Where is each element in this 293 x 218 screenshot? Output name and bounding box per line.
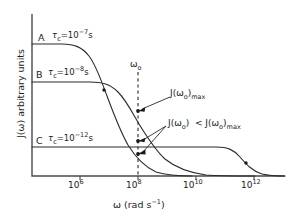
x-axis-title-close: ) [161,199,165,210]
curve-a-tau-1e-7 [32,44,192,176]
leader-line-j-omega-a [143,126,166,140]
tau-mid-c: =10 [57,133,75,143]
data-marker-curve-c [244,161,247,164]
tau-unit-c: s [88,133,92,143]
tick-3-exp: 10 [194,178,202,186]
journal-figure: A τc=10−7s B τc=10−8s C τc=10−12s ωo J(ω… [0,0,293,218]
curve-label-a-tau: τc=10−7s [52,31,93,40]
tick-3-base: 10 [183,180,194,190]
x-axis-title-main: ω (rad s [113,199,151,210]
x-tick-label-1e12: 1012 [241,181,261,190]
tick-1-base: 10 [68,180,79,190]
data-marker-curve-a [102,88,105,91]
leader-line-j-omega-max [142,97,170,109]
curve-label-c-tau: τc=10−12s [48,134,93,143]
omega-zero-label: ωo [130,60,142,69]
curve-label-a-id: A [38,33,45,43]
annot-cmp-rhs-suffix: max [227,123,241,131]
annot-max-suffix: max [191,93,205,101]
annot-cmp-rhs: J(ω [205,118,219,128]
x-tick-label-1e6: 106 [68,181,84,190]
annot-max-main: J(ω [170,88,184,98]
tau-unit-b: s [84,67,88,77]
tau-mid-b: =10 [57,67,75,77]
annot-cmp-lhs: J(ω [168,118,182,128]
y-axis-title: J(ω) arbitrary units [15,19,26,169]
curve-label-b-tau: τc=10−8s [48,68,89,77]
tick-2-base: 10 [126,180,137,190]
arrowhead-j-omega-c [138,150,146,155]
x-axis-title-exp: −1 [151,198,161,206]
tick-1-exp: 6 [79,178,83,186]
annotation-j-omega-comparison: J(ωo) < J(ωo)max [168,119,241,128]
curve-label-c-id: C [36,136,43,146]
annot-cmp-lhs-close: ) [186,118,190,128]
annot-cmp-operator: < [195,118,203,128]
tick-4-exp: 12 [252,178,260,186]
tau-exp-a: −7 [79,28,89,36]
tau-mid-a: =10 [61,30,79,40]
tau-exp-c: −12 [75,131,89,139]
tau-unit-a: s [88,30,92,40]
x-tick-label-1e8: 108 [126,181,142,190]
leader-line-j-omega-c [143,126,166,152]
omega-zero-symbol: ω [130,59,138,69]
tick-2-exp: 8 [137,178,141,186]
tau-exp-b: −8 [75,65,85,73]
x-tick-label-1e10: 1010 [183,181,203,190]
x-axis-title: ω (rad s−1) [113,200,165,210]
curve-label-b-id: B [36,70,43,80]
tick-4-base: 10 [241,180,252,190]
omega-zero-subscript: o [138,64,142,72]
annotation-j-omega-max: J(ωo)max [170,89,205,98]
